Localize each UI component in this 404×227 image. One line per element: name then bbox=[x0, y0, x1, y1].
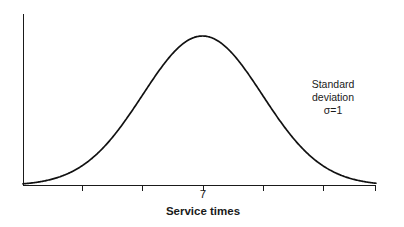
normal-distribution-figure: 7 Service times Standard deviation σ=1 bbox=[0, 0, 404, 227]
standard-deviation-annotation: Standard deviation σ=1 bbox=[298, 78, 369, 117]
annotation-label-standard-deviation: Standard deviation bbox=[298, 78, 369, 104]
x-tick-label-mean: 7 bbox=[200, 189, 206, 201]
annotation-label-sigma-value: σ=1 bbox=[298, 104, 369, 117]
x-axis-title: Service times bbox=[166, 206, 240, 218]
